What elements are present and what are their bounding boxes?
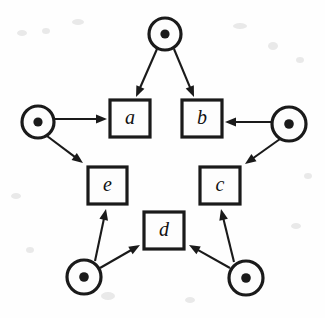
transition-c: c [200, 167, 240, 204]
petri-net-figure: abcde [0, 0, 325, 318]
scan-speckle [304, 173, 312, 179]
transition-layer: abcde [88, 100, 240, 249]
arc-place-top-to-b-arrowhead [186, 85, 194, 97]
arc-place-bottom-right-to-d [189, 245, 230, 268]
arc-place-top-to-a-arrowhead [136, 85, 144, 97]
place-top-token [160, 29, 169, 38]
arc-place-bottom-left-to-d-line [100, 249, 132, 268]
transition-b-label: b [197, 106, 207, 128]
transition-e-label: e [103, 173, 112, 195]
transition-a-label: a [125, 106, 135, 128]
place-right-token [284, 119, 294, 129]
arc-place-top-to-b [174, 49, 194, 97]
arc-place-left-to-a-arrowhead [96, 115, 107, 124]
scan-speckle [185, 297, 195, 303]
place-top [149, 18, 181, 50]
petri-net-canvas: abcde [0, 0, 325, 318]
place-bottom-left-token [79, 272, 89, 282]
arc-place-bottom-left-to-e-line [95, 218, 104, 261]
scan-speckle [296, 57, 304, 63]
scan-noise-layer [11, 19, 312, 303]
place-bottom-left [67, 260, 101, 294]
arc-place-bottom-left-to-d [100, 245, 140, 268]
transition-b: b [182, 100, 222, 137]
transition-a: a [110, 100, 150, 137]
arc-place-bottom-right-to-c [219, 209, 234, 262]
arc-place-bottom-right-to-d-arrowhead [189, 245, 201, 254]
arc-place-bottom-left-to-e [95, 209, 108, 261]
transition-d-label: d [159, 218, 170, 240]
arc-place-bottom-right-to-d-line [197, 249, 230, 268]
place-left-token [33, 117, 42, 126]
arc-place-right-to-b-arrowhead [225, 118, 236, 127]
place-bottom-right-token [241, 273, 251, 283]
place-left [22, 106, 54, 138]
place-right [272, 107, 306, 141]
arc-place-top-to-b-line [174, 49, 191, 89]
arc-place-bottom-right-to-c-line [223, 218, 234, 262]
scan-speckle [101, 292, 115, 300]
scan-speckle [17, 30, 27, 36]
place-bottom-right [229, 261, 263, 295]
arc-place-bottom-left-to-d-arrowhead [128, 245, 140, 254]
arc-place-left-to-a [55, 115, 107, 124]
arc-place-right-to-c-line [252, 139, 280, 159]
arc-place-right-to-b [225, 118, 271, 127]
place-layer [22, 18, 306, 295]
transition-c-label: c [216, 173, 225, 195]
arc-place-left-to-e-line [47, 136, 76, 158]
arc-place-right-to-c-arrowhead [245, 154, 257, 164]
transition-e: e [88, 167, 127, 204]
arc-place-top-to-a-line [140, 49, 157, 89]
arc-place-left-to-e [47, 136, 83, 163]
scan-speckle [11, 193, 21, 199]
scan-speckle [42, 28, 50, 34]
scan-speckle [268, 42, 278, 50]
arc-place-right-to-c [245, 139, 280, 164]
arc-place-bottom-left-to-e-arrowhead [99, 209, 108, 221]
transition-d: d [144, 212, 184, 249]
scan-speckle [72, 19, 84, 25]
scan-speckle [233, 23, 247, 29]
scan-speckle [291, 223, 301, 229]
scan-speckle [26, 247, 34, 253]
arc-place-bottom-right-to-c-arrowhead [219, 209, 228, 221]
arc-place-top-to-a [136, 49, 157, 97]
